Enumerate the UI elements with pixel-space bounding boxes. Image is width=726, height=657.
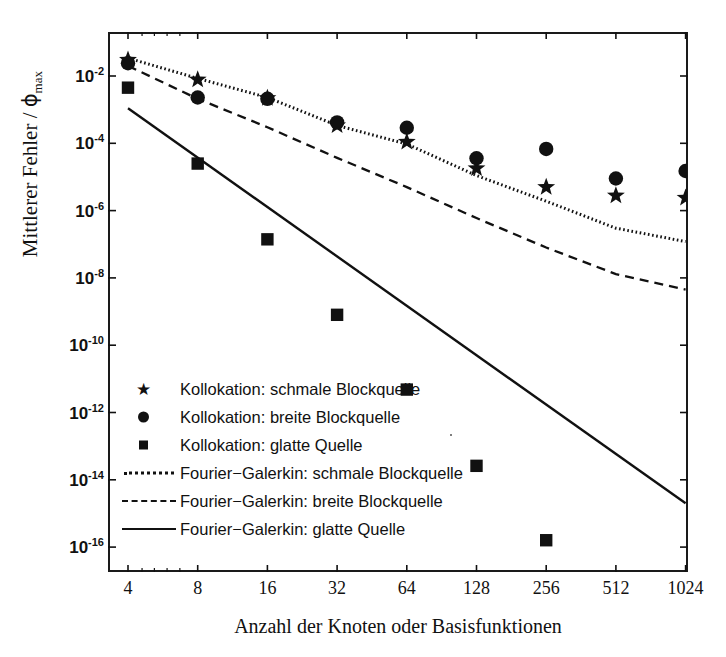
x-axis-label: Anzahl der Knoten oder Basisfunktionen xyxy=(108,615,688,638)
phi-symbol: ϕ xyxy=(18,93,42,107)
x-tick-label: 128 xyxy=(463,578,490,599)
legend-symbol-square-marker xyxy=(122,431,180,459)
y-tick-exponent: -6 xyxy=(94,200,104,212)
y-tick-exponent: -2 xyxy=(94,65,104,77)
legend-symbol-dotted-line xyxy=(122,459,180,487)
legend-entry: Fourier−Galerkin: breite Blockquelle xyxy=(122,487,542,515)
star-icon: ★ xyxy=(136,381,151,398)
chart-legend: ★Kollokation: schmale BlockquelleKolloka… xyxy=(122,375,542,543)
y-tick-label: 10-10 xyxy=(48,334,104,356)
legend-entry: Fourier−Galerkin: schmale Blockquelle xyxy=(122,459,542,487)
square-icon xyxy=(139,441,148,450)
x-tick-label: 256 xyxy=(533,578,560,599)
dotted-line-icon xyxy=(124,472,174,475)
legend-label: Kollokation: schmale Blockquelle xyxy=(180,380,420,399)
y-tick-label: 10-4 xyxy=(48,132,104,154)
legend-symbol-circle-marker xyxy=(122,403,180,431)
legend-label: Kollokation: glatte Quelle xyxy=(180,436,363,455)
legend-entry: Kollokation: glatte Quelle xyxy=(122,431,542,459)
y-tick-mantissa: 10 xyxy=(69,336,88,355)
y-tick-label: 10-2 xyxy=(48,65,104,87)
y-tick-exponent: -12 xyxy=(88,402,104,414)
y-tick-mantissa: 10 xyxy=(75,134,94,153)
legend-symbol-dashed-line xyxy=(122,487,180,515)
x-tick-label: 64 xyxy=(398,578,416,599)
y-tick-label: 10-16 xyxy=(48,536,104,558)
x-tick-label: 16 xyxy=(258,578,276,599)
legend-symbol-solid-line xyxy=(122,515,180,543)
y-tick-label: 10-6 xyxy=(48,200,104,222)
y-tick-label: 10-14 xyxy=(48,469,104,491)
y-tick-exponent: -14 xyxy=(88,469,104,481)
y-tick-mantissa: 10 xyxy=(75,269,94,288)
circle-icon xyxy=(138,412,149,423)
solid-line-icon xyxy=(122,528,176,530)
legend-label: Kollokation: breite Blockquelle xyxy=(180,408,400,427)
legend-entry: ★Kollokation: schmale Blockquelle xyxy=(122,375,542,403)
y-tick-mantissa: 10 xyxy=(75,67,94,86)
chart-figure: Mittlerer Fehler / ϕmax 10-210-410-610-8… xyxy=(0,0,726,657)
x-tick-label: 512 xyxy=(602,578,629,599)
x-tick-label: 8 xyxy=(193,578,202,599)
y-tick-exponent: -8 xyxy=(94,267,104,279)
x-tick-label: 32 xyxy=(328,578,346,599)
x-tick-label: 4 xyxy=(124,578,133,599)
legend-entry: Fourier−Galerkin: glatte Quelle xyxy=(122,515,542,543)
x-tick-label: 1024 xyxy=(668,578,704,599)
y-tick-label: 10-8 xyxy=(48,267,104,289)
y-tick-mantissa: 10 xyxy=(69,403,88,422)
y-tick-mantissa: 10 xyxy=(69,471,88,490)
legend-symbol-star-marker: ★ xyxy=(122,375,180,403)
y-axis-tick-labels: 10-210-410-610-810-1010-1210-1410-16 xyxy=(42,0,104,657)
y-tick-mantissa: 10 xyxy=(75,201,94,220)
y-axis-label-text: Mittlerer Fehler / xyxy=(18,107,42,257)
y-tick-exponent: -16 xyxy=(88,536,104,548)
y-tick-exponent: -10 xyxy=(88,334,104,346)
legend-entry: Kollokation: breite Blockquelle xyxy=(122,403,542,431)
legend-label: Fourier−Galerkin: schmale Blockquelle xyxy=(180,464,463,483)
y-tick-exponent: -4 xyxy=(94,132,104,144)
dashed-line-icon xyxy=(122,500,176,502)
legend-label: Fourier−Galerkin: glatte Quelle xyxy=(180,520,405,539)
y-tick-mantissa: 10 xyxy=(69,538,88,557)
y-tick-label: 10-12 xyxy=(48,402,104,424)
legend-label: Fourier−Galerkin: breite Blockquelle xyxy=(180,492,443,511)
